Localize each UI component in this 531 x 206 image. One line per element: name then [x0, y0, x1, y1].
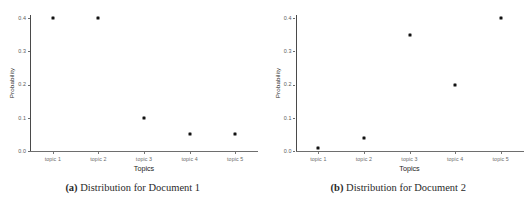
x-tick-label: topic 3 — [388, 156, 432, 162]
data-point — [454, 83, 457, 86]
y-tick-label: 0.2 — [284, 81, 292, 87]
x-tick-mark — [318, 152, 319, 154]
y-tick-label: 0.1 — [18, 115, 26, 121]
y-tick-mark — [293, 151, 295, 152]
x-tick-mark — [190, 152, 191, 154]
subfigure-tag-a: (a) — [65, 182, 77, 193]
y-axis-line — [30, 15, 31, 151]
y-tick-mark — [293, 51, 295, 52]
subfigure-caption-text-b: Distribution for Document 2 — [346, 182, 466, 193]
y-tick-label: 0.3 — [18, 48, 26, 54]
x-tick-label: topic 1 — [31, 156, 75, 162]
y-tick-mark — [28, 118, 30, 119]
y-tick-label: 0.3 — [284, 48, 292, 54]
x-axis-title: Topics — [296, 164, 524, 173]
data-point — [362, 136, 365, 139]
data-point — [234, 133, 237, 136]
data-point — [499, 17, 502, 20]
data-point — [408, 33, 411, 36]
x-tick-mark — [364, 152, 365, 154]
y-axis-title: Probability — [268, 0, 275, 48]
x-tick-mark — [53, 152, 54, 154]
y-axis-line — [296, 15, 297, 151]
x-tick-mark — [144, 152, 145, 154]
y-tick-label: 0.0 — [284, 148, 292, 154]
data-point — [97, 17, 100, 20]
y-tick-mark — [28, 51, 30, 52]
x-axis-title: Topics — [30, 164, 258, 173]
data-point — [188, 133, 191, 136]
x-tick-label: topic 1 — [296, 156, 340, 162]
y-axis-title: Probability — [2, 0, 9, 48]
y-tick-label: 0.1 — [284, 115, 292, 121]
data-point — [317, 146, 320, 149]
y-tick-label: 0.4 — [18, 15, 26, 21]
x-tick-mark — [501, 152, 502, 154]
subfigure-caption-a: (a) Distribution for Document 1 — [0, 182, 266, 193]
x-tick-label: topic 2 — [76, 156, 120, 162]
figure-row: Probability 0.00.10.20.30.4topic 1topic … — [0, 0, 531, 206]
y-tick-mark — [28, 151, 30, 152]
scatter-plot-document-2: Probability 0.00.10.20.30.4topic 1topic … — [266, 0, 531, 178]
x-tick-mark — [410, 152, 411, 154]
y-tick-mark — [28, 18, 30, 19]
x-tick-mark — [455, 152, 456, 154]
x-tick-label: topic 4 — [433, 156, 477, 162]
x-tick-label: topic 2 — [342, 156, 386, 162]
data-point — [51, 17, 54, 20]
y-tick-mark — [293, 118, 295, 119]
x-tick-label: topic 4 — [168, 156, 212, 162]
scatter-plot-document-1: Probability 0.00.10.20.30.4topic 1topic … — [0, 0, 266, 178]
subfigure-caption-text-a: Distribution for Document 1 — [80, 182, 200, 193]
subfigure-caption-b: (b) Distribution for Document 2 — [266, 182, 531, 193]
y-tick-mark — [28, 85, 30, 86]
x-tick-mark — [235, 152, 236, 154]
data-point — [143, 116, 146, 119]
subfigure-a: Probability 0.00.10.20.30.4topic 1topic … — [0, 0, 266, 206]
y-tick-label: 0.0 — [18, 148, 26, 154]
x-tick-label: topic 5 — [479, 156, 523, 162]
x-tick-label: topic 3 — [122, 156, 166, 162]
y-tick-mark — [293, 85, 295, 86]
y-tick-label: 0.4 — [284, 15, 292, 21]
subfigure-tag-b: (b) — [331, 182, 344, 193]
y-tick-label: 0.2 — [18, 81, 26, 87]
x-tick-mark — [98, 152, 99, 154]
y-tick-mark — [293, 18, 295, 19]
subfigure-b: Probability 0.00.10.20.30.4topic 1topic … — [266, 0, 531, 206]
x-tick-label: topic 5 — [213, 156, 257, 162]
